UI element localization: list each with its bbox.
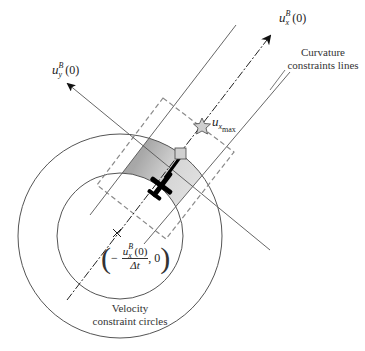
- uxmax-label: uxmax: [212, 115, 236, 128]
- velocity-circles-label: Velocity constraint circles: [82, 302, 178, 328]
- circle-center-cross-icon: [113, 229, 121, 237]
- uy-axis-label: uBy (0): [52, 63, 79, 76]
- y-axis-line: [68, 84, 270, 250]
- ux-axis-label: uBx (0): [279, 11, 306, 24]
- circle-center-coordinate-label: (− uBx (0) Δt , 0): [101, 243, 170, 273]
- curvature-lines-label: Curvature constraints lines: [282, 46, 364, 72]
- target-square-marker: [175, 148, 186, 159]
